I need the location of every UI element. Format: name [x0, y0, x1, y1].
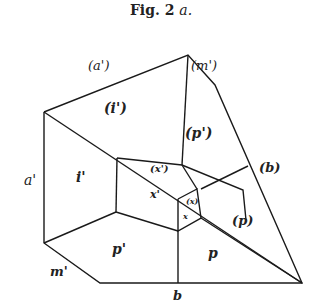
- label-p-prime: p': [112, 241, 126, 257]
- label-p-paren-prime: (p'): [185, 125, 212, 141]
- label-b-paren: (b): [259, 160, 280, 175]
- label-i-prime: i': [76, 169, 86, 185]
- edge-lower-left: [44, 212, 116, 243]
- label-x-prime: x': [149, 188, 160, 201]
- label-m-prime: m': [50, 264, 68, 279]
- edge-inner-bottom: [116, 212, 178, 231]
- label-x-paren: (x): [186, 196, 199, 206]
- inner-face-x-prime: [117, 158, 246, 220]
- label-x: x: [182, 211, 188, 221]
- crystal-diagram: (a') (m') (i') (p') (x') x' (x) x (b) (p…: [0, 0, 322, 308]
- label-i-paren-prime: (i'): [104, 100, 127, 116]
- label-x-paren-prime: (x'): [150, 163, 169, 174]
- edge-to-b: [201, 166, 248, 189]
- label-a-prime: a': [24, 172, 36, 188]
- edge-inner-left: [116, 158, 117, 212]
- label-p: p: [208, 245, 218, 261]
- label-a-paren-prime: (a'): [88, 58, 109, 73]
- label-m-paren-prime: (m'): [191, 58, 217, 73]
- label-b: b: [173, 288, 182, 303]
- label-p-paren: (p): [232, 213, 253, 228]
- edge-top-vertical: [182, 55, 188, 165]
